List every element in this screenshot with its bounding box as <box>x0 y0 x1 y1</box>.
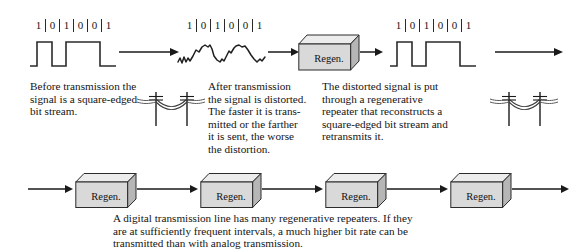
bit-value: 0 <box>448 19 461 32</box>
chain-arrow-1-icon <box>137 183 199 195</box>
bit-value: 0 <box>406 19 419 32</box>
regenerative-repeater-top[interactable]: Regen. <box>298 33 360 73</box>
chain-arrow-3-icon <box>387 183 449 195</box>
bit-value: 1 <box>211 19 224 32</box>
caption-line: retransmits it. <box>322 130 477 143</box>
bit-value: 0 <box>88 19 101 32</box>
caption-line: the distortion. <box>208 143 330 156</box>
caption-line: The faster it is trans- <box>208 105 330 118</box>
bit-value: 1 <box>183 19 196 32</box>
caption-line: The distorted signal is put <box>322 80 477 93</box>
caption-bottom-summary: A digital transmission line has many reg… <box>113 212 483 250</box>
utility-poles-right-icon <box>490 88 558 126</box>
bit-value: 0 <box>239 19 252 32</box>
regenerative-repeater-3[interactable]: Regen. <box>325 172 387 210</box>
flow-arrow-4-icon <box>494 46 564 58</box>
caption-line: the signal is distorted. <box>208 93 330 106</box>
regenerative-repeater-4[interactable]: Regen. <box>450 172 512 210</box>
caption-after-transmission: After transmission the signal is distort… <box>208 80 330 156</box>
bit-value: 1 <box>462 19 475 32</box>
chain-arrow-4-icon <box>512 183 570 195</box>
bit-value: 0 <box>74 19 87 32</box>
bit-value: 1 <box>392 19 405 32</box>
bit-value: 1 <box>32 19 45 32</box>
flow-arrow-1-icon <box>118 46 180 58</box>
bit-value: 1 <box>253 19 266 32</box>
caption-line: A digital transmission line has many reg… <box>113 212 483 225</box>
flow-arrow-3-icon <box>360 46 384 58</box>
regenerative-repeater-2[interactable]: Regen. <box>200 172 262 210</box>
bit-value: 1 <box>420 19 433 32</box>
figure-canvas: 1 0 1 0 0 1 1 0 1 0 0 1 <box>0 0 576 250</box>
distorted-wave-signal <box>176 38 268 70</box>
square-wave-signal-before <box>28 36 128 70</box>
bit-stream-label-stage4: 1 0 1 0 0 1 <box>392 19 475 32</box>
bit-value: 0 <box>197 19 210 32</box>
regenerative-repeater-1[interactable]: Regen. <box>75 172 137 210</box>
caption-line: through a regenerative <box>322 93 477 106</box>
bit-value: 0 <box>434 19 447 32</box>
bit-value: 1 <box>60 19 73 32</box>
bit-value: 1 <box>102 19 115 32</box>
caption-line: it is sent, the worse <box>208 130 330 143</box>
caption-line: After transmission <box>208 80 330 93</box>
caption-line: square-edged bit stream and <box>322 118 477 131</box>
bit-value: 0 <box>225 19 238 32</box>
bit-stream-label-stage2: 1 0 1 0 0 1 <box>183 19 266 32</box>
square-wave-signal-after <box>388 36 488 70</box>
flow-arrow-2-icon <box>268 46 300 58</box>
caption-line: repeater that reconstructs a <box>322 105 477 118</box>
caption-line: transmitted than with analog transmissio… <box>113 237 483 250</box>
bit-value: 0 <box>46 19 59 32</box>
chain-arrow-0-icon <box>28 183 74 195</box>
caption-line: mitted or the farther <box>208 118 330 131</box>
chain-arrow-2-icon <box>262 183 324 195</box>
bit-stream-label-stage1: 1 0 1 0 0 1 <box>32 19 115 32</box>
utility-poles-left-icon <box>137 88 205 126</box>
caption-regenerated-signal: The distorted signal is put through a re… <box>322 80 477 143</box>
caption-line: are at sufficiently frequent intervals, … <box>113 225 483 238</box>
